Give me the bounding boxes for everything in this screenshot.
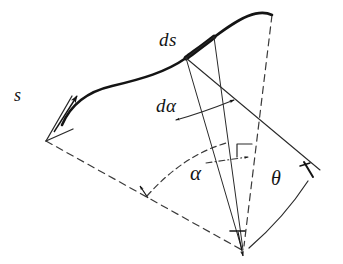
radial-line-inner <box>186 58 242 250</box>
arc-start-tick <box>46 96 72 141</box>
dashed-vertical-axis <box>244 15 272 246</box>
label-arc-length-s: s <box>14 86 21 104</box>
chord-ds <box>186 37 214 58</box>
right-angle-mark <box>237 144 252 157</box>
label-angle-theta: θ <box>271 168 281 188</box>
theta-arc <box>249 181 308 248</box>
label-angle-element-dalpha: dα <box>156 96 176 115</box>
dashed-alpha-arc <box>147 143 226 196</box>
dashdot-radius-line <box>206 157 248 163</box>
label-angle-alpha: α <box>190 163 201 184</box>
dashed-baseline-to-vertex <box>46 141 242 250</box>
figure-canvas: ds dα s α θ <box>0 0 343 264</box>
label-arc-element-ds: ds <box>159 30 177 49</box>
tangent-line <box>186 58 320 170</box>
arc-length-arrow <box>54 96 77 132</box>
